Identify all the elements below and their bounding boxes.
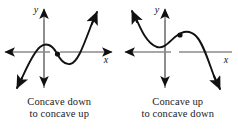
caption-left-line2: to concave up <box>0 108 118 120</box>
axes-left <box>5 9 112 88</box>
cubic-curve-left <box>19 18 94 84</box>
cubic-curve-right <box>134 14 217 84</box>
caption-right: Concave up to concave down <box>119 96 237 120</box>
caption-left-line1: Concave down <box>0 96 118 108</box>
caption-right-line1: Concave up <box>119 96 237 108</box>
panel-concave-down-to-up: y x Concave down to concave up <box>0 0 119 133</box>
y-axis-label: y <box>33 4 39 15</box>
panel-concave-up-to-down: y x Concave up to concave down <box>119 0 238 133</box>
concavity-figure: y x Concave down to concave up <box>0 0 237 133</box>
plot-area-right: y x <box>119 0 237 96</box>
x-axis-label: x <box>223 54 229 65</box>
x-axis-label: x <box>103 54 109 65</box>
axes-right <box>125 9 232 88</box>
curve-end-arrow-lower-left <box>17 78 22 88</box>
curve-end-arrow-lower-right <box>214 76 220 89</box>
plot-area-left: y x <box>0 0 118 96</box>
curve-end-arrow-upper-left <box>132 11 137 22</box>
caption-right-line2: to concave down <box>119 108 237 120</box>
inflection-point-dot <box>55 51 60 56</box>
y-axis-label: y <box>154 4 160 15</box>
curve-end-arrow-upper-right <box>92 12 97 24</box>
inflection-point-dot <box>177 32 182 37</box>
caption-left: Concave down to concave up <box>0 96 118 120</box>
